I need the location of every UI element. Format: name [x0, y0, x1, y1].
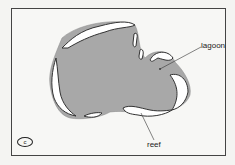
- reef-small-1: [133, 33, 137, 47]
- reef-label: reef: [147, 140, 161, 149]
- lagoon-label: lagoon: [201, 41, 225, 50]
- reef-small-2: [139, 49, 143, 59]
- panel-label-badge: c: [17, 137, 33, 147]
- atoll-diagram: [0, 0, 235, 165]
- lagoon-area: [50, 22, 191, 119]
- reef-pointer: [141, 113, 154, 140]
